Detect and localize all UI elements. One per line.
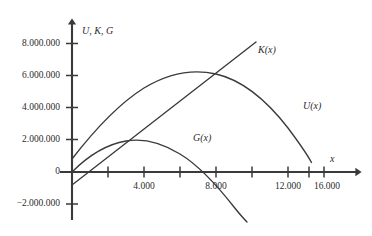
y-tick-label-4000000: 4.000.000 [0, 103, 60, 113]
y-tick-label-0: 0 [0, 167, 60, 177]
curve-k [72, 42, 256, 185]
y-tick-label-2000000: 2.000.000 [0, 135, 60, 145]
curve-label-k: K(x) [258, 45, 276, 55]
chart-container: 8.000.000 6.000.000 4.000.000 2.000.000 … [0, 0, 372, 236]
y-axis-title: U, K, G [82, 26, 113, 36]
y-tick-label-6000000: 6.000.000 [0, 71, 60, 81]
curve-label-u: U(x) [303, 101, 321, 111]
curve-u [72, 72, 312, 163]
x-tick-label-16000: 16.000 [294, 182, 360, 192]
y-tick-label-8000000: 8.000.000 [0, 39, 60, 49]
x-tick-label-4000: 4.000 [114, 182, 174, 192]
y-tick-label-minus-2000000: −2.000.000 [0, 199, 60, 209]
x-axis-title: x [330, 154, 334, 164]
curve-label-g: G(x) [193, 133, 211, 143]
x-tick-label-8000: 8.000 [186, 182, 246, 192]
